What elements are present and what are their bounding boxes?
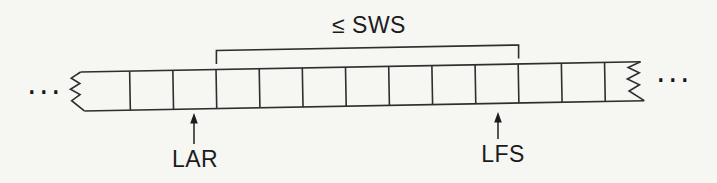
right-ellipsis: ... <box>656 54 692 89</box>
cell-divider <box>259 69 260 108</box>
cell-divider <box>345 67 346 106</box>
lfs-up-arrow-icon <box>494 112 502 123</box>
lar-label: LAR <box>172 146 218 172</box>
cell-divider <box>561 63 562 102</box>
figure-canvas: ... ... <box>0 0 717 183</box>
cell-divider <box>518 64 519 103</box>
cell-divider <box>432 66 433 105</box>
cell-divider <box>605 62 606 101</box>
cell-divider <box>389 66 390 105</box>
sliding-window-diagram: ... ... <box>0 0 717 183</box>
strip-bottom-edge <box>84 101 644 111</box>
right-torn-edge-icon <box>627 62 644 101</box>
sequence-strip <box>70 62 644 112</box>
lfs-label: LFS <box>481 141 525 167</box>
cell-divider <box>475 65 476 104</box>
window-bracket <box>216 45 518 64</box>
cell-divider <box>216 70 217 109</box>
left-torn-edge-icon <box>70 72 84 111</box>
cell-divider <box>302 68 303 107</box>
lar-pointer <box>190 113 198 144</box>
left-ellipsis: ... <box>27 66 63 101</box>
cell-divider <box>130 71 131 110</box>
sws-label: ≤ SWS <box>332 12 406 38</box>
strip-top-edge <box>81 62 641 72</box>
cell-divider <box>173 70 174 109</box>
lar-up-arrow-icon <box>190 113 198 124</box>
lfs-pointer <box>494 112 502 139</box>
